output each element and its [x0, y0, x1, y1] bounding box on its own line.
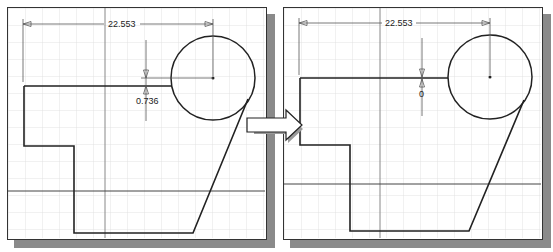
circle-center-point: [489, 76, 492, 79]
vertical-dimension-value: 0: [419, 89, 424, 99]
sketch-canvas: 22.553 0.736 22.553: [0, 0, 553, 252]
grid: [8, 8, 265, 238]
grid: [284, 8, 541, 238]
right-panel-content: 22.553 0: [284, 8, 541, 238]
left-panel-content: 22.553 0.736: [8, 8, 265, 238]
horizontal-dimension-value: 22.553: [385, 18, 413, 28]
vertical-dimension-value: 0.736: [136, 96, 159, 106]
horizontal-dimension-value: 22.553: [108, 19, 136, 29]
